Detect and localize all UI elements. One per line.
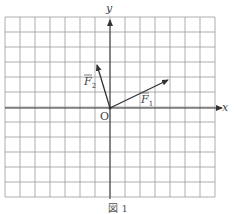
f1-letter: F bbox=[141, 93, 149, 106]
f1-label: F1 bbox=[141, 93, 153, 108]
vector-f1 bbox=[110, 80, 168, 108]
vector-f2 bbox=[97, 65, 110, 108]
origin-label: O bbox=[100, 110, 109, 123]
f1-subscript: 1 bbox=[149, 100, 153, 108]
x-axis-label: x bbox=[222, 101, 228, 114]
coordinate-diagram bbox=[0, 0, 236, 214]
y-axis-label: y bbox=[106, 2, 112, 15]
figure-caption: 図 1 bbox=[0, 200, 236, 214]
f2-subscript: 2 bbox=[92, 82, 96, 90]
f2-letter: F bbox=[84, 75, 92, 88]
f2-label: F2 bbox=[84, 75, 96, 90]
